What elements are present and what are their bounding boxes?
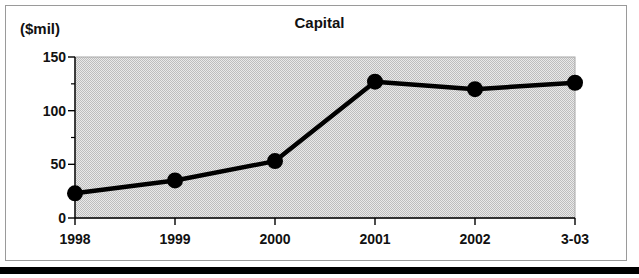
data-point-2000	[267, 153, 283, 169]
data-point-1999	[167, 172, 183, 188]
data-point-1998	[67, 185, 83, 201]
plot-background	[75, 57, 575, 218]
x-tick-label-1998: 1998	[30, 231, 120, 247]
x-tick-label-2002: 2002	[430, 231, 520, 247]
data-point-2002	[467, 81, 483, 97]
y-tick-label-100: 100	[20, 103, 66, 119]
y-tick-label-0: 0	[20, 210, 66, 226]
y-tick-label-50: 50	[20, 156, 66, 172]
data-point-3-03	[567, 75, 583, 91]
y-tick-label-150: 150	[20, 49, 66, 65]
x-tick-label-2001: 2001	[330, 231, 420, 247]
data-point-2001	[367, 74, 383, 90]
x-axis-ticks	[75, 218, 575, 225]
x-tick-label-3-03: 3-03	[530, 231, 620, 247]
page-edge-bar	[0, 267, 639, 274]
x-tick-label-1999: 1999	[130, 231, 220, 247]
x-tick-label-2000: 2000	[230, 231, 320, 247]
capital-chart-figure: ($mil) Capital	[0, 0, 639, 278]
